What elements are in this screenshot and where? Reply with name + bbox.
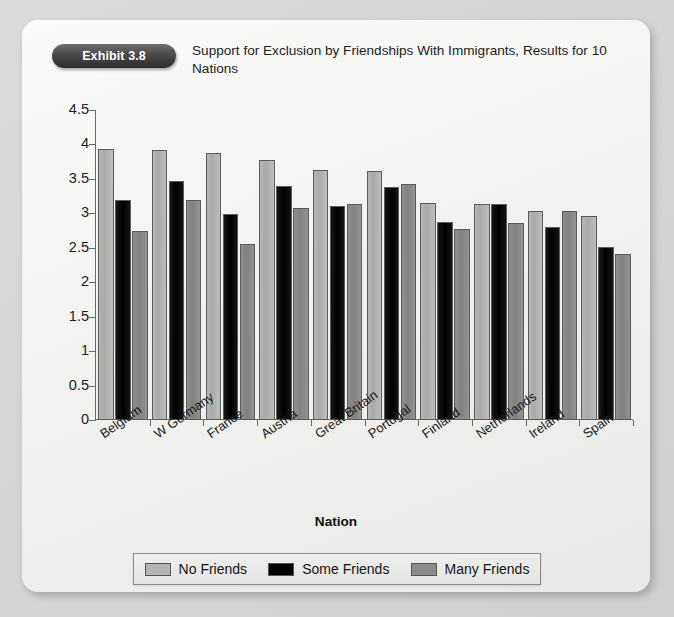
bar	[581, 216, 597, 420]
y-axis-tick-mark	[89, 144, 96, 145]
y-axis-tick-label: 1	[43, 342, 89, 358]
y-axis-tick-mark	[89, 213, 96, 214]
bar	[98, 149, 114, 420]
bar-chart: 00.511.522.533.544.5 BelgiumW GermanyFra…	[22, 20, 650, 592]
legend-item[interactable]: No Friends	[145, 561, 247, 577]
bar	[132, 231, 148, 420]
bar	[259, 160, 275, 420]
y-axis-tick-mark	[89, 248, 96, 249]
bar	[115, 200, 131, 420]
y-axis-tick-label: 4.5	[43, 101, 89, 117]
bar	[508, 223, 524, 420]
bar	[474, 204, 490, 420]
bar	[562, 211, 578, 420]
legend-swatch-icon	[268, 563, 294, 576]
bar	[169, 181, 185, 420]
legend-swatch-icon	[145, 563, 171, 576]
y-axis-tick-mark	[89, 351, 96, 352]
x-axis-tick-mark	[579, 420, 580, 426]
y-axis-tick-mark	[89, 179, 96, 180]
y-axis-tick-label: 2	[43, 273, 89, 289]
x-axis-tick-mark	[203, 420, 204, 426]
bar	[420, 203, 436, 420]
y-axis-tick-mark	[89, 110, 96, 111]
y-axis-tick-label: 2.5	[43, 239, 89, 255]
bar	[367, 171, 383, 420]
x-axis-tick-mark	[526, 420, 527, 426]
bar	[598, 247, 614, 420]
x-axis-tick-mark	[633, 420, 634, 426]
bar	[313, 170, 329, 420]
legend-item[interactable]: Many Friends	[411, 561, 530, 577]
bar	[206, 153, 222, 420]
y-axis-tick-label: 3.5	[43, 170, 89, 186]
bar	[491, 204, 507, 420]
y-axis-tick-label: 4	[43, 135, 89, 151]
screenshot-root: Exhibit 3.8 Support for Exclusion by Fri…	[0, 0, 674, 617]
bar-plot-area	[96, 110, 633, 420]
x-axis-tick-mark	[365, 420, 366, 426]
x-axis-tick-mark	[311, 420, 312, 426]
y-axis-tick-label: 0.5	[43, 377, 89, 393]
legend-label: Some Friends	[302, 561, 389, 577]
bar	[347, 204, 363, 420]
x-axis-title: Nation	[22, 514, 650, 529]
y-axis-tick-mark	[89, 282, 96, 283]
bar	[454, 229, 470, 421]
y-axis-tick-label: 3	[43, 204, 89, 220]
bar	[186, 200, 202, 420]
bar	[437, 222, 453, 420]
legend-item[interactable]: Some Friends	[268, 561, 389, 577]
x-axis-tick-mark	[257, 420, 258, 426]
bar	[401, 184, 417, 420]
y-axis-tick-label: 0	[43, 411, 89, 427]
y-axis-tick-label: 1.5	[43, 308, 89, 324]
x-axis-tick-mark	[150, 420, 151, 426]
exhibit-card: Exhibit 3.8 Support for Exclusion by Fri…	[22, 20, 650, 592]
legend-swatch-icon	[411, 563, 437, 576]
bar	[223, 214, 239, 420]
x-axis-tick-mark	[418, 420, 419, 426]
bar	[276, 186, 292, 420]
bar	[545, 227, 561, 420]
x-axis-tick-mark	[472, 420, 473, 426]
bar	[384, 187, 400, 420]
y-axis-tick-mark	[89, 317, 96, 318]
bar	[240, 244, 256, 420]
bar	[330, 206, 346, 420]
chart-legend: No FriendsSome FriendsMany Friends	[133, 553, 541, 585]
bar	[293, 208, 309, 420]
bar	[152, 150, 168, 420]
legend-label: Many Friends	[445, 561, 530, 577]
bar	[615, 254, 631, 420]
y-axis-tick-mark	[89, 386, 96, 387]
legend-label: No Friends	[179, 561, 247, 577]
y-axis-tick-mark	[89, 420, 96, 421]
